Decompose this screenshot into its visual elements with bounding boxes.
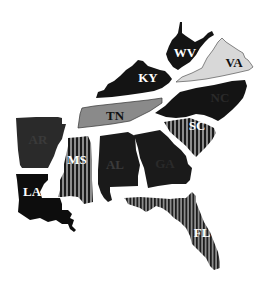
state-label-nc: NC xyxy=(211,90,230,105)
state-label-sc: SC xyxy=(189,118,206,133)
southeast-states-map: WV VA KY TN NC SC AR MS AL GA LA FL xyxy=(0,0,270,289)
state-label-la: LA xyxy=(23,184,42,199)
state-label-tn: TN xyxy=(106,108,125,123)
state-ms[interactable] xyxy=(58,136,93,204)
state-label-ky: KY xyxy=(138,70,158,85)
state-ky[interactable] xyxy=(96,60,172,98)
state-label-ar: AR xyxy=(29,132,48,147)
state-label-wv: WV xyxy=(174,45,197,60)
state-nc[interactable] xyxy=(155,80,247,121)
state-label-ga: GA xyxy=(155,156,175,171)
state-label-al: AL xyxy=(106,157,124,172)
state-label-ms: MS xyxy=(67,152,87,167)
state-label-fl: FL xyxy=(194,225,211,240)
state-label-va: VA xyxy=(225,55,243,70)
